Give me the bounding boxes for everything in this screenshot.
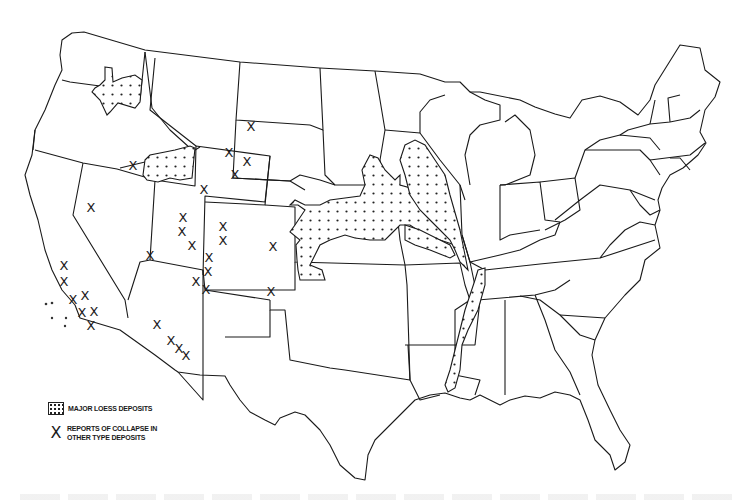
collapse-marker: X: [219, 219, 228, 234]
collapse-marker: X: [178, 224, 187, 239]
collapse-marker: X: [231, 167, 240, 182]
collapse-marker: X: [225, 145, 234, 160]
legend-label-collapse: REPORTS OF COLLAPSE IN OTHER TYPE DEPOSI…: [67, 424, 157, 442]
collapse-marker: X: [267, 284, 276, 299]
collapse-marker: X: [247, 119, 256, 134]
legend-item-loess: MAJOR LOESS DEPOSITS: [48, 402, 157, 415]
collapse-marker: X: [60, 274, 69, 289]
x-marker-icon: X: [48, 423, 64, 442]
legend-label-collapse-line1: REPORTS OF COLLAPSE IN: [67, 425, 157, 432]
legend-item-collapse: X REPORTS OF COLLAPSE IN OTHER TYPE DEPO…: [48, 423, 157, 442]
collapse-marker: X: [269, 239, 278, 254]
collapse-marker: X: [60, 258, 69, 273]
collapse-marker: X: [69, 292, 78, 307]
collapse-marker: X: [200, 182, 209, 197]
collapse-marker: X: [87, 318, 96, 333]
collapse-marker: X: [243, 154, 252, 169]
dotted-pattern-swatch-icon: [48, 402, 64, 415]
collapse-marker: X: [182, 348, 191, 363]
collapse-marker: X: [87, 200, 96, 215]
collapse-marker: X: [205, 250, 214, 265]
collapse-marker: X: [202, 282, 211, 297]
loess-palouse: [92, 67, 142, 115]
collapse-marker: X: [179, 210, 188, 225]
collapse-marker: X: [90, 304, 99, 319]
collapse-marker: X: [204, 264, 213, 279]
figure-caption-cropped: [20, 494, 740, 500]
collapse-marker: X: [153, 317, 162, 332]
collapse-marker: X: [78, 305, 87, 320]
collapse-marker: X: [146, 248, 155, 263]
collapse-marker: X: [129, 158, 138, 173]
legend-label-loess: MAJOR LOESS DEPOSITS: [68, 404, 152, 413]
collapse-marker: X: [192, 274, 201, 289]
loess-snake-river: [143, 146, 195, 182]
channel-islands: [45, 302, 68, 327]
map-legend: MAJOR LOESS DEPOSITS X REPORTS OF COLLAP…: [48, 402, 157, 450]
collapse-marker: X: [188, 238, 197, 253]
legend-label-collapse-line2: OTHER TYPE DEPOSITS: [67, 434, 145, 441]
collapse-marker: X: [219, 233, 228, 248]
collapse-marker: X: [81, 288, 90, 303]
